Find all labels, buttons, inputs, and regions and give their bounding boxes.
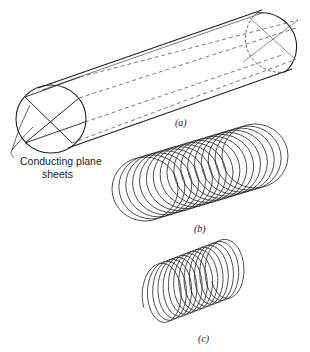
cylinder-top-edge [38,10,262,88]
annotation-line1: Conducting plane [20,155,102,167]
ring [112,157,178,221]
panel-label-c: (c) [198,333,210,345]
ring [222,124,288,188]
sheet-dash-4 [85,55,282,122]
ring [188,134,254,198]
ring [140,149,206,213]
sheet-edge-1 [25,77,80,97]
ring [119,155,185,219]
figure-canvas: Conducting plane sheets (a) (b) (c) [0,0,310,352]
panel-label-b: (b) [194,223,206,235]
sheet-dash-3 [72,60,294,143]
ring [201,130,267,194]
ring [153,145,219,209]
ring [133,151,199,215]
sheet-dash-1 [80,20,298,77]
sheet-edge-2 [25,122,85,143]
rings-panel-b [112,124,288,221]
ring [195,132,261,196]
sheet-front-1 [25,97,72,143]
cylinder-bottom-edge [68,69,292,148]
ring [215,126,281,190]
ring [146,147,212,211]
annotation-arrow-1 [12,105,30,150]
helix-panel-c [142,239,244,322]
ring [126,153,192,217]
cylinder-right-end-back [245,13,285,72]
ring [167,141,233,205]
sheet-back-2 [243,20,298,62]
panel-label-a: (a) [175,117,187,129]
ring [208,128,274,192]
ring [174,138,240,202]
cylinder-panel-a [11,10,298,157]
ring [181,136,247,200]
annotation-hook [11,150,14,157]
ring [160,143,226,207]
helix-wire [142,239,244,322]
annotation-line2: sheets [42,168,73,180]
